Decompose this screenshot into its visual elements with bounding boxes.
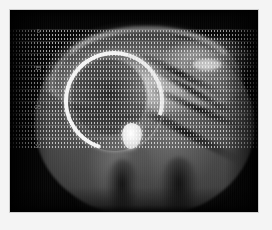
airway-shadow-left [105, 159, 139, 213]
orbit-highlight [193, 59, 221, 70]
scan-frame: 5 15 25 30 [9, 9, 259, 213]
depth-tick-label: 25 [35, 105, 41, 110]
medical-scan-viewer[interactable]: 5 15 25 30 [0, 0, 272, 230]
depth-tick-label: 5 [37, 29, 40, 34]
scan-image[interactable]: 5 15 25 30 [9, 9, 259, 213]
depth-tick-label: 15 [35, 66, 41, 71]
depth-tick-label: 30 [35, 144, 41, 149]
